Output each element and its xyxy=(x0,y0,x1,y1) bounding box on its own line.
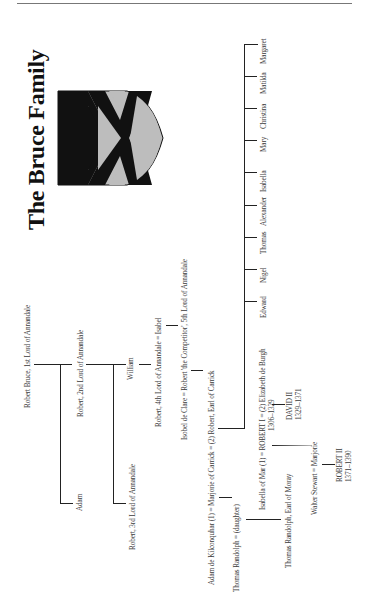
connector xyxy=(244,76,257,77)
gen1-robert-bruce-1st: Robert Bruce, 1st Lord of Annandale xyxy=(24,305,33,408)
connector xyxy=(166,325,178,326)
connector xyxy=(60,503,73,504)
connector xyxy=(244,172,257,173)
connector xyxy=(191,370,203,371)
connector xyxy=(219,497,232,498)
connector xyxy=(113,503,126,504)
connector xyxy=(272,404,285,405)
sibling-christina: Christina xyxy=(260,104,269,129)
gen3-robert-3rd: Robert, 3rd Lord of Annandale xyxy=(129,464,138,550)
connector xyxy=(246,519,281,520)
robert-i-marriages: Isabella of Mar (1) = ROBERT I = (2) Eli… xyxy=(259,349,268,510)
connector xyxy=(244,205,257,206)
connector xyxy=(244,237,257,238)
gen3-william: William xyxy=(127,357,136,380)
page-title: The Bruce Family xyxy=(23,49,49,230)
page: The Bruce Family Robert Bruce, 1st Lord … xyxy=(0,0,378,607)
connector xyxy=(244,44,258,45)
connector xyxy=(139,364,151,365)
header-rule xyxy=(17,3,352,4)
robert-ii-name: ROBERT II xyxy=(336,449,345,482)
connector xyxy=(244,140,257,141)
connector xyxy=(34,364,72,365)
sibling-edward: Edward xyxy=(260,296,269,318)
connector xyxy=(272,445,312,446)
thomas-randolph-daughter: Thomas Randolph = (daughter) xyxy=(233,504,242,592)
connector xyxy=(60,364,61,503)
gen4-robert-4th: Robert, 4th Lord of Annandale = Isabel xyxy=(155,318,164,427)
walter-stewart-marjorie: Walter Stewart = Marjorie xyxy=(311,442,320,515)
robert-ii-dates: 1371–1390 xyxy=(345,449,354,482)
gen5-isobel-robert-competitor: Isobel de Clare = Robert 'the Competitor… xyxy=(181,259,190,440)
david-ii: DAVID II 1329–1371 xyxy=(286,389,303,420)
connector xyxy=(86,364,126,365)
connector xyxy=(244,108,257,109)
robert-ii: ROBERT II 1371–1390 xyxy=(336,449,353,482)
thomas-randolph-earl-of-moray: Thomas Randolph, Earl of Moray xyxy=(285,474,294,568)
saltire-coat-of-arms-icon xyxy=(57,90,165,186)
connector xyxy=(244,301,257,302)
sibling-margaret: Margaret xyxy=(260,39,269,64)
connector xyxy=(218,428,245,429)
gen2-adam: Adam xyxy=(76,494,85,511)
sibling-nigel: Nigel xyxy=(260,268,269,283)
sibling-matilda: Matilda xyxy=(260,72,269,94)
connector xyxy=(244,269,257,270)
david-ii-dates: 1329–1371 xyxy=(295,389,304,420)
connector xyxy=(113,364,114,503)
david-ii-name: DAVID II xyxy=(286,389,295,420)
sibling-mary: Mary xyxy=(260,137,269,152)
gen2-robert-2nd: Robert, 2nd Lord of Annandale xyxy=(77,330,86,417)
connector xyxy=(322,464,335,465)
sibling-isabella: Isabella xyxy=(260,170,269,192)
sibling-alexander: Alexander xyxy=(260,197,269,226)
gen6-marjorie-of-carrick: Adam de Kilconquhar (1) = Marjorie of Ca… xyxy=(208,370,217,585)
sibling-thomas: Thomas xyxy=(260,231,269,254)
